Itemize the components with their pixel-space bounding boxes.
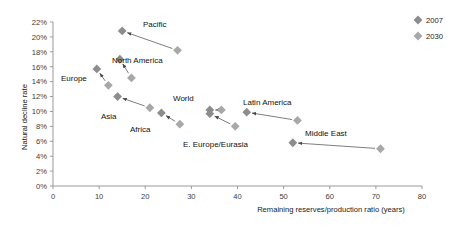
series-connector-asia [123, 98, 145, 106]
series-annotations: PacificNorth AmericaEuropeAsiaAfricaWorl… [61, 20, 348, 149]
legend-label-2030: 2030 [426, 32, 443, 41]
x-axis-ticks: 01020304050607080 [51, 186, 426, 201]
y-tick-label: 0% [36, 182, 47, 191]
point-2007-europe [92, 65, 101, 74]
annotation-e-europe-eurasia: E. Europe/Eurasia [183, 140, 248, 149]
scatter-chart: 0%2%4%6%8%10%12%14%16%18%20%22% 01020304… [0, 0, 455, 230]
series-connector-north-america [123, 64, 129, 73]
y-axis-ticks: 0%2%4%6%8%10%12%14%16%18%20%22% [32, 18, 53, 191]
y-tick-label: 18% [32, 48, 47, 57]
annotation-north-america: North America [112, 56, 163, 65]
x-tick-label: 70 [372, 192, 380, 201]
x-axis-title: Remaining reserves/production ratio (yea… [257, 205, 405, 214]
point-2030-world [217, 106, 226, 115]
series-connector-middle-east [298, 143, 375, 148]
y-tick-label: 12% [32, 92, 47, 101]
legend-label-2007: 2007 [426, 16, 443, 25]
y-tick-label: 6% [36, 137, 47, 146]
series-connector-e-europe-eurasia [215, 116, 231, 124]
annotation-africa: Africa [130, 125, 151, 134]
point-2030-africa [175, 120, 184, 129]
series-connector-pacific [127, 33, 172, 49]
y-tick-label: 22% [32, 18, 47, 27]
y-tick-label: 20% [32, 33, 47, 42]
annotation-middle-east: Middle East [305, 129, 348, 138]
y-tick-label: 4% [36, 152, 47, 161]
x-tick-label: 50 [279, 192, 287, 201]
annotation-asia: Asia [101, 112, 117, 121]
y-tick-label: 14% [32, 77, 47, 86]
point-2030-north-america [127, 74, 136, 83]
point-2007-latin-america [242, 108, 251, 117]
legend-marker-2007 [414, 16, 423, 25]
y-tick-label: 8% [36, 122, 47, 131]
point-2030-asia [145, 103, 154, 112]
point-2030-pacific [173, 46, 182, 55]
legend-marker-2030 [414, 32, 423, 41]
series-connector-africa [166, 116, 175, 121]
y-tick-label: 2% [36, 167, 47, 176]
series-connector-latin-america [252, 113, 292, 119]
x-tick-label: 20 [141, 192, 149, 201]
y-tick-label: 10% [32, 107, 47, 116]
point-2030-middle-east [376, 144, 385, 153]
chart-canvas: 0%2%4%6%8%10%12%14%16%18%20%22% 01020304… [0, 0, 455, 230]
x-tick-label: 40 [233, 192, 241, 201]
point-2030-europe [104, 81, 113, 90]
y-axis-title: Natural decline rate [20, 84, 29, 150]
series-connector-europe [100, 73, 105, 80]
annotation-latin-america: Latin America [243, 98, 292, 107]
x-tick-label: 0 [51, 192, 55, 201]
x-tick-label: 30 [187, 192, 195, 201]
chart-legend: 20072030 [414, 16, 443, 41]
annotation-world: World [173, 94, 194, 103]
axes [53, 22, 422, 186]
annotation-europe: Europe [61, 74, 87, 83]
x-tick-label: 80 [418, 192, 426, 201]
point-2030-e-europe-eurasia [231, 122, 240, 131]
point-2007-pacific [118, 27, 127, 36]
annotation-pacific: Pacific [143, 20, 167, 29]
point-2007-middle-east [288, 138, 297, 147]
x-tick-label: 10 [95, 192, 103, 201]
point-2007-africa [157, 109, 166, 118]
x-tick-label: 60 [326, 192, 334, 201]
point-2007-asia [113, 92, 122, 101]
point-2030-latin-america [293, 116, 302, 125]
y-tick-label: 16% [32, 63, 47, 72]
